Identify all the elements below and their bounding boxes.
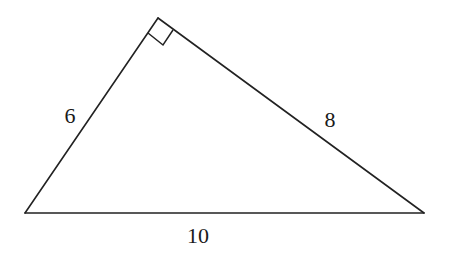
- side-right-leg: [158, 18, 424, 213]
- label-left-leg: 6: [65, 105, 76, 127]
- right-angle-marker-icon: [148, 30, 173, 45]
- label-hypotenuse: 10: [187, 225, 209, 247]
- side-left-leg: [25, 18, 158, 213]
- triangle-diagram: [0, 0, 449, 257]
- label-right-leg: 8: [325, 109, 336, 131]
